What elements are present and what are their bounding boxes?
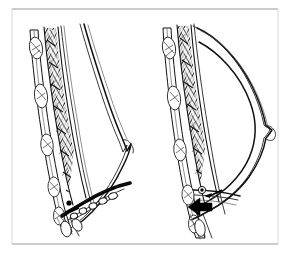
fold-lobule — [88, 202, 97, 210]
fold-lobule — [78, 207, 87, 215]
fold-marker-dot — [66, 200, 71, 205]
left-breast-inner-line — [71, 24, 127, 228]
right-implant-capsule — [196, 42, 255, 208]
right-breast-outer-line-2 — [201, 31, 268, 127]
left-breast-outer-line — [75, 24, 131, 227]
figure-container: Sagittal cross-section illustration of c… — [0, 0, 289, 256]
fold-lobule — [108, 192, 119, 201]
left-panel — [28, 24, 134, 238]
left-breast-outer-line-2 — [88, 25, 127, 139]
anatomical-illustration — [0, 0, 289, 256]
implant-capsule-line — [196, 42, 255, 208]
fold-lobule — [98, 197, 108, 205]
fold-vessel-core — [200, 188, 203, 191]
fold-lobule — [70, 212, 79, 220]
right-panel — [161, 24, 276, 239]
left-breast-contour — [71, 24, 131, 228]
left-nipple-outline — [123, 140, 133, 153]
left-nipple — [123, 140, 133, 153]
